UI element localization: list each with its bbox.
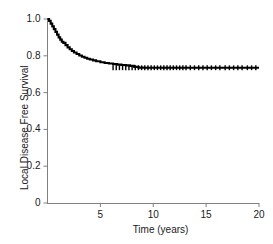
y-tick-label: 0.2 bbox=[0, 161, 41, 171]
x-tick-label: 10 bbox=[138, 210, 168, 220]
y-tick-label: 0.6 bbox=[0, 88, 41, 98]
y-axis-ticks bbox=[44, 19, 48, 203]
x-tick-label: 15 bbox=[191, 210, 221, 220]
y-tick-label: 0.4 bbox=[0, 124, 41, 134]
y-tick-label: 0 bbox=[0, 198, 41, 208]
chart-figure: Local Disease Free Survival Time (years)… bbox=[0, 0, 273, 244]
y-tick-label: 0.8 bbox=[0, 51, 41, 61]
plot-area bbox=[0, 0, 273, 244]
y-tick-label: 1.0 bbox=[0, 14, 41, 24]
x-axis-title: Time (years) bbox=[24, 224, 273, 235]
survival-curve bbox=[48, 19, 260, 68]
x-tick-label: 5 bbox=[85, 210, 115, 220]
axis-lines bbox=[47, 18, 259, 204]
x-tick-label: 20 bbox=[244, 210, 273, 220]
